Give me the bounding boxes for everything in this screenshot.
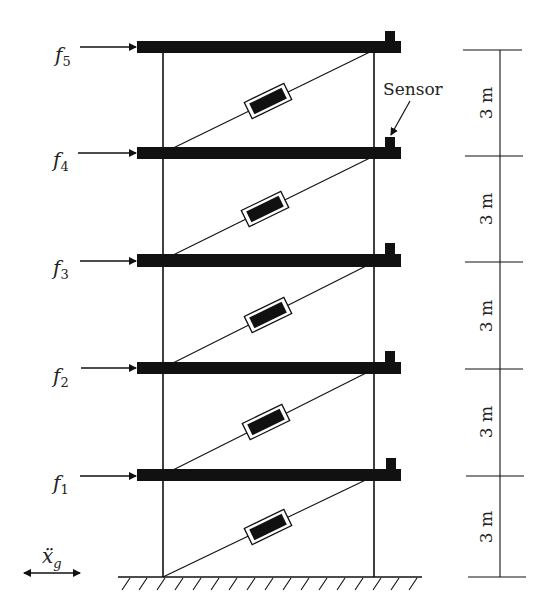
ground-hatching <box>122 578 417 590</box>
floor-slab-2 <box>137 362 401 374</box>
sensor-3 <box>385 243 395 255</box>
floor-slab-1 <box>137 469 401 481</box>
damper-story-3 <box>244 297 291 332</box>
floor-slab-4 <box>137 147 401 159</box>
sensor-pointer-arrow <box>391 101 410 135</box>
force-label-5: f5 <box>53 43 71 69</box>
damper-story-1 <box>244 509 291 544</box>
force-labels: f5 f4 f3 f2 f1 <box>51 43 71 497</box>
floor-slab-3 <box>137 254 401 267</box>
sensor-5 <box>385 31 395 42</box>
damper-story-5 <box>244 83 291 118</box>
sensor-label: Sensor <box>383 79 444 99</box>
story-height-5: 3 m <box>476 87 496 119</box>
force-label-1: f1 <box>51 471 69 497</box>
story-height-3: 3 m <box>476 300 496 332</box>
floor-slab-5 <box>137 41 401 53</box>
damper-story-2 <box>242 404 289 439</box>
sensor-4 <box>385 137 395 148</box>
ground-motion-label: ẍg <box>42 544 62 571</box>
story-height-4: 3 m <box>476 193 496 225</box>
story-height-2: 3 m <box>476 406 496 438</box>
dimension-labels: 3 m 3 m 3 m 3 m 3 m <box>476 87 496 543</box>
sensor-2 <box>385 351 395 363</box>
damper-story-4 <box>241 191 288 226</box>
structure-diagram: Sensor f5 f4 f3 f2 f1 ẍg <box>0 0 553 613</box>
sensor-1 <box>386 458 396 470</box>
force-label-3: f3 <box>51 256 69 282</box>
story-height-1: 3 m <box>476 511 496 543</box>
force-label-2: f2 <box>51 364 69 390</box>
force-label-4: f4 <box>51 148 69 174</box>
force-arrows <box>78 47 136 476</box>
